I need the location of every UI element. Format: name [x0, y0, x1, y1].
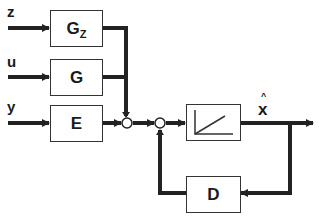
summing-junction-1: [122, 118, 132, 128]
block-g-label: G: [70, 68, 83, 88]
input-y-label: y: [7, 99, 15, 114]
input-z-label: z: [7, 4, 15, 19]
block-gz-label: G: [67, 19, 80, 39]
output-x-label: x: [258, 101, 267, 118]
input-u-label: u: [7, 54, 16, 69]
feedback-left-line: [160, 130, 186, 193]
feedback-right-line: [247, 123, 290, 193]
block-g: G: [50, 59, 103, 96]
block-integrator: [186, 104, 241, 141]
block-gz: GZ: [50, 10, 103, 47]
block-e: E: [50, 105, 103, 142]
block-d: D: [186, 176, 241, 213]
gz-output-line: [102, 28, 126, 116]
connections: [0, 0, 321, 219]
block-gz-subscript: Z: [80, 28, 87, 40]
block-e-label: E: [71, 114, 82, 134]
summing-junction-2: [155, 118, 165, 128]
ramp-integrator-icon: [189, 107, 239, 139]
block-d-label: D: [207, 185, 219, 205]
